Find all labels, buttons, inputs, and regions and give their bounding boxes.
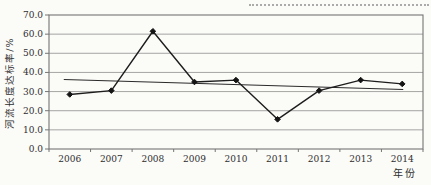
x-tick-label: 2007: [100, 154, 123, 164]
x-tick-label: 2012: [308, 154, 331, 164]
data-point-2013: [358, 77, 364, 83]
y-tick-label: 20.0: [23, 106, 43, 116]
data-point-2014: [399, 81, 405, 87]
x-tick-label: 2006: [58, 154, 81, 164]
y-tick-label: 30.0: [23, 87, 43, 97]
y-tick-label: 10.0: [23, 125, 43, 135]
line-chart: 0.010.020.030.040.050.060.070.0200620072…: [0, 0, 431, 185]
y-tick-label: 0.0: [29, 144, 44, 154]
y-tick-label: 70.0: [23, 10, 43, 20]
x-tick-label: 2011: [266, 154, 289, 164]
x-tick-label: 2013: [349, 154, 372, 164]
x-tick-label: 2014: [391, 154, 414, 164]
chart-figure: 0.010.020.030.040.050.060.070.0200620072…: [0, 0, 431, 185]
x-tick-label: 2009: [183, 154, 206, 164]
data-point-2006: [67, 92, 73, 98]
y-tick-label: 40.0: [23, 67, 43, 77]
x-tick-label: 2010: [225, 154, 248, 164]
y-tick-label: 50.0: [23, 48, 43, 58]
data-series-line: [70, 31, 402, 119]
x-axis-title: 年份: [385, 165, 425, 180]
y-axis-title: 河流长度达标率/%: [2, 28, 16, 138]
y-tick-label: 60.0: [23, 29, 43, 39]
x-tick-label: 2008: [141, 154, 164, 164]
